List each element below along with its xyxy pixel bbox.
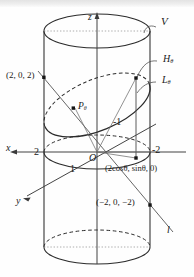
label-tick-y-negative: -1	[113, 117, 121, 127]
label-tick-y-positive: 1	[70, 164, 75, 174]
label-axis-z: z	[88, 13, 92, 23]
label-tick-x-positive: 2	[34, 147, 39, 157]
label-line-l: l	[167, 225, 170, 235]
geometry-drawing	[0, 0, 194, 277]
label-solid-V: V	[161, 16, 168, 27]
label-axis-y: y	[16, 196, 20, 206]
label-point-P-subscript: θ	[84, 105, 87, 111]
label-point-P: Pθ	[78, 102, 87, 112]
z-axis	[95, 12, 100, 264]
label-curve-L-subscript: θ	[168, 78, 171, 85]
label-point-top: (2, 0, 2)	[6, 71, 35, 80]
label-point-param: (2cosθ, sinθ, 0)	[105, 164, 157, 173]
label-curve-L: Lθ	[162, 75, 171, 86]
label-origin: O	[89, 153, 96, 163]
label-curve-H: Hθ	[163, 54, 173, 65]
label-point-bottom: (−2, 0, −2)	[96, 198, 135, 207]
label-curve-H-subscript: θ	[170, 57, 173, 64]
figure-canvas: V Hθ Lθ (2, 0, 2) Pθ -1 x 2 -2 O 1 (2cos…	[0, 0, 194, 277]
label-tick-x-negative: -2	[152, 145, 160, 155]
tilted-ellipse-near-arc	[45, 83, 159, 150]
tilted-ellipse-far-arc	[35, 60, 149, 127]
label-axis-x: x	[6, 143, 10, 153]
